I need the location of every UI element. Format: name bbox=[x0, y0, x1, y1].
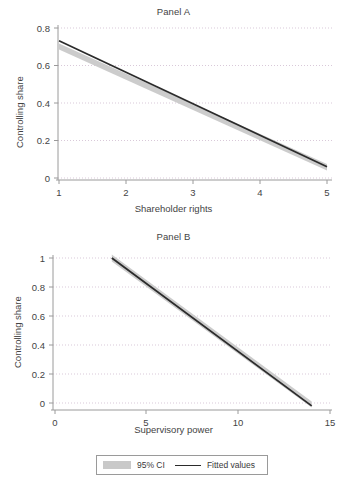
panel-a-x-ticks bbox=[59, 180, 327, 184]
panel-b-ytick-0.6: 0.6 bbox=[32, 311, 45, 322]
panel-a-ytick-0.4: 0.4 bbox=[37, 98, 50, 109]
panel-a-ytick-0.6: 0.6 bbox=[37, 60, 50, 71]
panel-a-ytick-0.2: 0.2 bbox=[37, 135, 50, 146]
panel-b-y-ticks bbox=[49, 258, 53, 403]
panel-a-ytick-0: 0 bbox=[45, 173, 50, 184]
panel-b-xlabel: Supervisory power bbox=[0, 424, 347, 435]
panel-b-ytick-0: 0 bbox=[40, 398, 45, 409]
panel-a-xtick-3: 3 bbox=[190, 187, 195, 198]
legend-entry-ci: 95% CI bbox=[103, 460, 165, 470]
ci-band-swatch-icon bbox=[103, 461, 131, 469]
panel-a-xtick-1: 1 bbox=[56, 187, 61, 198]
panel-a-plot: 0 0.2 0.4 0.6 0.8 1 2 3 4 5 bbox=[0, 0, 347, 225]
panel-a: Panel A bbox=[0, 0, 347, 225]
panel-b-gridlines bbox=[53, 258, 332, 403]
legend: 95% CI Fitted values bbox=[96, 455, 268, 475]
panel-b-ytick-0.8: 0.8 bbox=[32, 282, 45, 293]
panel-a-xtick-5: 5 bbox=[324, 187, 329, 198]
fitted-line-swatch-icon bbox=[175, 465, 201, 466]
panel-a-fitted-line bbox=[59, 41, 327, 167]
legend-label-ci: 95% CI bbox=[137, 460, 165, 470]
panel-a-xtick-4: 4 bbox=[257, 187, 262, 198]
figure-container: Panel A bbox=[0, 0, 347, 485]
legend-entry-fitted: Fitted values bbox=[165, 460, 255, 470]
legend-label-fitted: Fitted values bbox=[207, 460, 255, 470]
panel-b-ytick-0.2: 0.2 bbox=[32, 369, 45, 380]
panel-a-ytick-0.8: 0.8 bbox=[37, 23, 50, 34]
panel-b-x-ticks bbox=[55, 410, 330, 414]
panel-b-ytick-1: 1 bbox=[40, 253, 45, 264]
panel-a-ci-band bbox=[59, 44, 327, 171]
panel-b: Panel B bbox=[0, 228, 347, 448]
panel-a-xtick-2: 2 bbox=[123, 187, 128, 198]
panel-b-ytick-0.4: 0.4 bbox=[32, 340, 45, 351]
panel-b-plot: 0 0.2 0.4 0.6 0.8 1 0 5 10 15 bbox=[0, 228, 347, 448]
panel-a-gridlines bbox=[58, 28, 332, 178]
panel-a-xlabel: Shareholder rights bbox=[0, 203, 347, 214]
panel-a-y-ticks bbox=[54, 28, 58, 178]
panel-b-ylabel: Controlling share bbox=[12, 296, 23, 368]
panel-b-fitted-line bbox=[112, 258, 312, 406]
panel-a-ylabel: Controlling share bbox=[14, 76, 25, 148]
